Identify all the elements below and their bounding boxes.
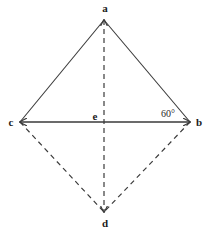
edge-c-a [20,20,104,122]
vertex-label-e: e [93,111,98,122]
vertex-label-a: a [102,3,108,14]
vertex-label-c: c [9,117,14,128]
figure-canvas [0,0,208,235]
edge-c-d-dashed [20,122,104,212]
angle-label-abc: 60° [161,109,175,119]
edge-b-d-dashed [104,122,190,212]
geometry-diagram: a c e b d 60° [0,0,208,235]
edge-a-b [104,20,190,122]
vertex-label-b: b [196,117,202,128]
vertex-label-d: d [102,218,108,229]
